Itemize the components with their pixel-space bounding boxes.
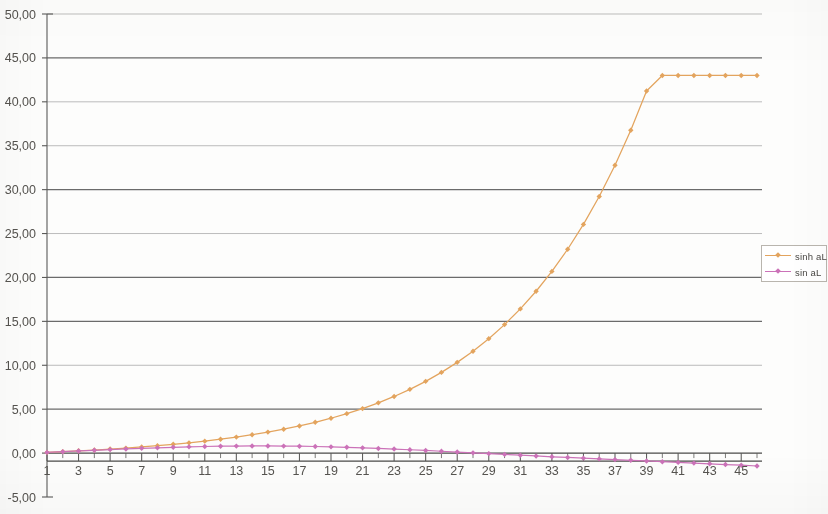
series-marker xyxy=(265,443,270,448)
series-marker xyxy=(218,437,223,442)
series-marker xyxy=(249,432,254,437)
series-marker xyxy=(360,406,365,411)
series-marker xyxy=(376,446,381,451)
series-marker xyxy=(44,450,49,455)
series-marker xyxy=(407,387,412,392)
legend-swatch-sinh-icon xyxy=(765,251,791,261)
svg-text:39: 39 xyxy=(640,464,654,478)
svg-text:7: 7 xyxy=(138,464,145,478)
y-tick-labels: 50,0045,0040,0035,0030,0025,0020,0015,00… xyxy=(5,8,36,505)
svg-text:17: 17 xyxy=(292,464,306,478)
series-marker xyxy=(234,443,239,448)
svg-text:37: 37 xyxy=(608,464,622,478)
series-marker xyxy=(265,429,270,434)
series-marker xyxy=(675,73,680,78)
series-marker xyxy=(281,427,286,432)
series-marker xyxy=(739,73,744,78)
svg-text:30,00: 30,00 xyxy=(5,183,36,197)
series-line-sinh-al xyxy=(47,75,757,452)
series-marker xyxy=(376,400,381,405)
svg-text:25,00: 25,00 xyxy=(5,227,36,241)
chart-legend: sinh aL sin aL xyxy=(761,245,827,282)
svg-text:35,00: 35,00 xyxy=(5,139,36,153)
series-marker xyxy=(328,416,333,421)
svg-text:-5,00: -5,00 xyxy=(8,491,37,505)
series-marker xyxy=(660,459,665,464)
svg-text:1: 1 xyxy=(44,464,51,478)
series-marker xyxy=(691,73,696,78)
series-marker xyxy=(313,444,318,449)
svg-text:20,00: 20,00 xyxy=(5,271,36,285)
gridline-group xyxy=(47,14,762,453)
svg-text:40,00: 40,00 xyxy=(5,95,36,109)
series-marker xyxy=(202,438,207,443)
series-marker xyxy=(202,444,207,449)
series-marker xyxy=(754,463,759,468)
svg-text:31: 31 xyxy=(513,464,527,478)
series-marker xyxy=(344,445,349,450)
svg-text:41: 41 xyxy=(671,464,685,478)
legend-label-sin: sin aL xyxy=(795,267,822,278)
legend-item-sin: sin aL xyxy=(762,264,826,280)
svg-text:21: 21 xyxy=(356,464,370,478)
svg-text:35: 35 xyxy=(576,464,590,478)
series-marker xyxy=(754,73,759,78)
svg-text:0,00: 0,00 xyxy=(12,447,36,461)
series-marker xyxy=(486,451,491,456)
svg-text:15: 15 xyxy=(261,464,275,478)
series-marker xyxy=(455,449,460,454)
series-marker xyxy=(218,444,223,449)
series-marker xyxy=(391,446,396,451)
svg-text:5,00: 5,00 xyxy=(12,403,36,417)
svg-text:19: 19 xyxy=(324,464,338,478)
svg-text:23: 23 xyxy=(387,464,401,478)
chart-container: 50,0045,0040,0035,0030,0025,0020,0015,00… xyxy=(0,0,828,514)
legend-swatch-sin-icon xyxy=(765,267,791,277)
y-axis xyxy=(42,14,53,497)
svg-text:11: 11 xyxy=(198,464,211,478)
legend-item-sinh: sinh aL xyxy=(762,248,826,264)
svg-text:9: 9 xyxy=(170,464,177,478)
series-marker xyxy=(644,458,649,463)
series-marker xyxy=(470,450,475,455)
svg-text:45,00: 45,00 xyxy=(5,51,36,65)
series-marker xyxy=(628,128,633,133)
series-marker xyxy=(423,448,428,453)
series-marker xyxy=(723,462,728,467)
x-axis xyxy=(47,453,762,461)
series-marker xyxy=(533,453,538,458)
series-marker xyxy=(360,445,365,450)
line-chart-plot: 50,0045,0040,0035,0030,0025,0020,0015,00… xyxy=(0,0,828,514)
x-tick-labels: 1357911131517192123252729313335373941434… xyxy=(44,464,749,478)
series-marker xyxy=(407,447,412,452)
svg-text:3: 3 xyxy=(75,464,82,478)
svg-text:25: 25 xyxy=(419,464,433,478)
svg-text:15,00: 15,00 xyxy=(5,315,36,329)
series-marker xyxy=(549,454,554,459)
series-marker xyxy=(565,455,570,460)
svg-text:33: 33 xyxy=(545,464,559,478)
series-marker xyxy=(328,444,333,449)
svg-text:5: 5 xyxy=(107,464,114,478)
series-marker xyxy=(723,73,728,78)
svg-text:10,00: 10,00 xyxy=(5,359,36,373)
legend-label-sinh: sinh aL xyxy=(795,251,827,262)
svg-text:27: 27 xyxy=(450,464,464,478)
series-marker xyxy=(313,420,318,425)
svg-text:45: 45 xyxy=(734,464,748,478)
series-marker xyxy=(234,434,239,439)
series-marker xyxy=(171,445,176,450)
series-marker xyxy=(612,163,617,168)
series-line-sin-al xyxy=(47,446,757,466)
series-marker xyxy=(123,446,128,451)
svg-text:29: 29 xyxy=(482,464,496,478)
svg-text:50,00: 50,00 xyxy=(5,8,36,22)
series-marker xyxy=(92,448,97,453)
series-marker xyxy=(597,194,602,199)
series-marker xyxy=(249,443,254,448)
series-marker xyxy=(297,423,302,428)
series-marker xyxy=(581,455,586,460)
series-marker xyxy=(707,73,712,78)
series-marker xyxy=(391,394,396,399)
series-marker xyxy=(281,443,286,448)
